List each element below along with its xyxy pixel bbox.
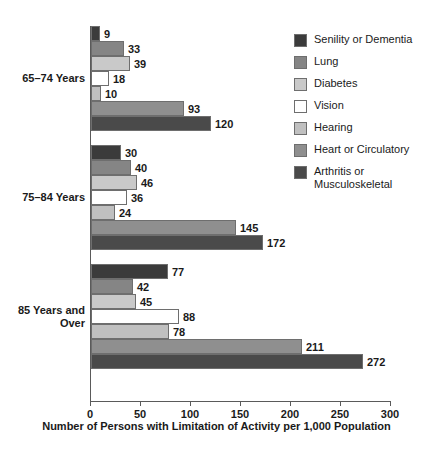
bar-value-label: 18 bbox=[109, 73, 125, 85]
bar-row: 42 bbox=[91, 279, 391, 294]
bar-value-label: 77 bbox=[168, 266, 184, 278]
bar-value-label: 272 bbox=[363, 356, 385, 368]
bar-row: 78 bbox=[91, 324, 391, 339]
legend-label: Senility or Dementia bbox=[314, 33, 412, 46]
bar bbox=[91, 190, 127, 205]
legend-swatch-icon bbox=[294, 100, 307, 113]
legend-swatch-icon bbox=[294, 34, 307, 47]
bar bbox=[91, 354, 363, 369]
bar-row: 24 bbox=[91, 205, 391, 220]
bar bbox=[91, 235, 263, 250]
group-label: 65–74 Years bbox=[0, 72, 85, 85]
x-tick-label: 50 bbox=[134, 408, 146, 420]
legend-item: Heart or Circulatory bbox=[294, 143, 433, 157]
x-tick-label: 250 bbox=[331, 408, 349, 420]
bar-value-label: 30 bbox=[121, 147, 137, 159]
x-tick-mark bbox=[240, 401, 241, 406]
x-tick-mark bbox=[90, 401, 91, 406]
bar-value-label: 33 bbox=[124, 43, 140, 55]
bar-row: 272 bbox=[91, 354, 391, 369]
bar-row: 172 bbox=[91, 235, 391, 250]
bar-row: 145 bbox=[91, 220, 391, 235]
bar bbox=[91, 264, 168, 279]
bar-value-label: 40 bbox=[131, 162, 147, 174]
legend-label: Lung bbox=[314, 55, 338, 68]
bar bbox=[91, 41, 124, 56]
bar bbox=[91, 309, 179, 324]
legend-item: Diabetes bbox=[294, 77, 433, 91]
bar bbox=[91, 294, 136, 309]
bar-value-label: 36 bbox=[127, 192, 143, 204]
bar-row: 88 bbox=[91, 309, 391, 324]
x-tick-mark bbox=[390, 401, 391, 406]
bar bbox=[91, 71, 109, 86]
bar bbox=[91, 324, 169, 339]
group-label: 75–84 Years bbox=[0, 191, 85, 204]
bar-value-label: 24 bbox=[115, 207, 131, 219]
legend-item: Hearing bbox=[294, 121, 433, 135]
legend-item: Vision bbox=[294, 99, 433, 113]
bar-value-label: 9 bbox=[100, 28, 110, 40]
x-tick-mark bbox=[340, 401, 341, 406]
legend-item: Senility or Dementia bbox=[294, 33, 433, 47]
legend-swatch-icon bbox=[294, 166, 307, 179]
bar-value-label: 88 bbox=[179, 311, 195, 323]
x-tick-mark bbox=[190, 401, 191, 406]
bar-value-label: 39 bbox=[130, 58, 146, 70]
legend-label: Arthritis or Musculoskeletal bbox=[314, 165, 433, 191]
bar bbox=[91, 101, 184, 116]
group-label: 85 Years andOver bbox=[0, 304, 85, 330]
bar bbox=[91, 56, 130, 71]
x-tick-mark bbox=[290, 401, 291, 406]
x-tick-label: 200 bbox=[281, 408, 299, 420]
x-axis-title: Number of Persons with Limitation of Act… bbox=[0, 420, 433, 432]
bar-row: 45 bbox=[91, 294, 391, 309]
bar bbox=[91, 339, 302, 354]
legend-swatch-icon bbox=[294, 56, 307, 69]
legend-label: Hearing bbox=[314, 121, 353, 134]
legend-swatch-icon bbox=[294, 78, 307, 91]
bar bbox=[91, 279, 133, 294]
bar bbox=[91, 86, 101, 101]
legend-swatch-icon bbox=[294, 144, 307, 157]
bar-value-label: 145 bbox=[236, 222, 258, 234]
x-tick-label: 150 bbox=[231, 408, 249, 420]
bar-value-label: 42 bbox=[133, 281, 149, 293]
x-tick-label: 0 bbox=[87, 408, 93, 420]
x-tick-label: 100 bbox=[181, 408, 199, 420]
bar-value-label: 45 bbox=[136, 296, 152, 308]
legend-label: Heart or Circulatory bbox=[314, 143, 409, 156]
bar-value-label: 93 bbox=[184, 103, 200, 115]
legend-label: Vision bbox=[314, 99, 344, 112]
legend-item: Arthritis or Musculoskeletal bbox=[294, 165, 433, 191]
bar bbox=[91, 116, 211, 131]
bar-value-label: 211 bbox=[302, 341, 324, 353]
legend-label: Diabetes bbox=[314, 77, 357, 90]
bar bbox=[91, 26, 100, 41]
x-tick-label: 300 bbox=[381, 408, 399, 420]
bar-row: 77 bbox=[91, 264, 391, 279]
limitation-of-activity-bar-chart: 050100150200250300 933391810931203040463… bbox=[0, 0, 433, 451]
bar-row: 211 bbox=[91, 339, 391, 354]
bar bbox=[91, 160, 131, 175]
bar-value-label: 46 bbox=[137, 177, 153, 189]
bar bbox=[91, 205, 115, 220]
bar-value-label: 172 bbox=[263, 237, 285, 249]
bar-value-label: 78 bbox=[169, 326, 185, 338]
bar-value-label: 10 bbox=[101, 88, 117, 100]
bar bbox=[91, 175, 137, 190]
bar bbox=[91, 220, 236, 235]
bar bbox=[91, 145, 121, 160]
legend: Senility or DementiaLungDiabetesVisionHe… bbox=[294, 33, 433, 199]
legend-swatch-icon bbox=[294, 122, 307, 135]
bar-value-label: 120 bbox=[211, 118, 233, 130]
x-tick-mark bbox=[140, 401, 141, 406]
legend-item: Lung bbox=[294, 55, 433, 69]
